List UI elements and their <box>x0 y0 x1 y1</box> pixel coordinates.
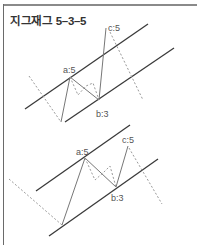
bottom-zigzag-wave <box>62 146 128 225</box>
bottom-label-a: a:5 <box>76 147 89 157</box>
bottom-diagram: a:5 b:3 c:5 <box>9 125 162 236</box>
top-lower-channel-line <box>65 48 174 122</box>
top-label-c: c:5 <box>108 23 120 33</box>
bottom-label-c: c:5 <box>122 135 134 145</box>
top-label-a: a:5 <box>63 65 76 75</box>
zigzag-diagram: a:5 b:3 c:5 a:5 b:3 c:5 <box>0 0 197 245</box>
top-dotted-follow <box>110 32 143 100</box>
top-label-b: b:3 <box>96 109 109 119</box>
bottom-label-b: b:3 <box>111 193 124 203</box>
bottom-dotted-lead-in <box>9 179 62 225</box>
top-zigzag-wave <box>61 28 106 122</box>
bottom-upper-channel-line <box>36 125 130 191</box>
top-diagram: a:5 b:3 c:5 <box>25 23 174 122</box>
top-dotted-lead-in <box>29 76 61 122</box>
